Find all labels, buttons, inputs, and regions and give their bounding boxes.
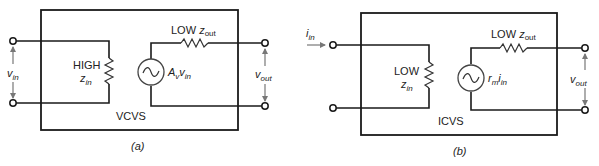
vcvs-diagram: vin HIGH zin vout LOW zout Avvin VCVS (a… xyxy=(7,10,272,152)
caption-b: (b) xyxy=(453,145,467,157)
input-bottom-wire xyxy=(16,84,109,103)
dependent-sources-figure: vin HIGH zin vout LOW zout Avvin VCVS (a… xyxy=(0,0,599,166)
input-terminal-top xyxy=(330,42,336,48)
zin-label: zin xyxy=(79,72,92,87)
source-top-wire xyxy=(151,43,181,59)
icvs-diagram: iin LOW zin vout LOW zout rmiin ICVS (b) xyxy=(306,13,588,157)
icvs-type-label: ICVS xyxy=(438,115,464,127)
input-terminal-bottom xyxy=(330,105,336,111)
input-bottom-wire xyxy=(336,88,429,108)
output-bottom-wire xyxy=(151,86,262,106)
output-bottom-wire xyxy=(471,92,582,110)
iin-label: iin xyxy=(306,27,315,42)
zin-level-label: LOW xyxy=(394,65,420,77)
vcvs-type-label: VCVS xyxy=(116,110,146,122)
input-terminal-top xyxy=(10,38,16,44)
source-gain-label: Avvin xyxy=(167,66,192,81)
output-terminal-bottom xyxy=(582,107,588,113)
output-terminal-top xyxy=(582,45,588,51)
zout-label: LOW zout xyxy=(491,28,537,42)
input-resistor-icon xyxy=(425,62,433,88)
input-terminal-bottom xyxy=(10,100,16,106)
output-resistor-icon xyxy=(500,44,527,52)
caption-a: (a) xyxy=(131,140,145,152)
zin-label: zin xyxy=(400,78,413,93)
zout-label: LOW zout xyxy=(171,24,217,38)
output-resistor-icon xyxy=(181,39,208,47)
source-transresistance-label: rmiin xyxy=(488,72,508,87)
source-top-wire xyxy=(471,48,500,64)
vin-label: vin xyxy=(7,67,19,82)
input-top-wire xyxy=(336,45,429,62)
zin-level-label: HIGH xyxy=(73,59,101,71)
output-terminal-bottom xyxy=(262,103,268,109)
input-resistor-icon xyxy=(105,58,113,84)
output-terminal-top xyxy=(262,40,268,46)
vout-label: vout xyxy=(570,73,587,88)
input-top-wire xyxy=(16,41,109,58)
vout-label: vout xyxy=(255,68,272,83)
